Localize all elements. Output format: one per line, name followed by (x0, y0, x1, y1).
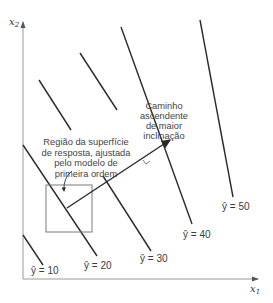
path-annotation-line-4: inclinação (143, 131, 184, 141)
contour-label-20: ŷ = 20 (84, 260, 112, 271)
contour-label-50: ŷ = 50 (222, 201, 250, 212)
contour-label-10: ŷ = 10 (31, 265, 59, 276)
region-annotation-line-4: primeira ordem (55, 169, 118, 179)
x-axis-label: x1 (250, 283, 260, 296)
path-annotation: Caminho ascendente de maior inclinação (140, 101, 188, 141)
contour-label-40: ŷ = 40 (183, 229, 211, 240)
contour-labels: ŷ = 10 ŷ = 20 ŷ = 30 ŷ = 40 ŷ = 50 (31, 201, 250, 276)
region-annotation: Região da superfície de resposta, ajusta… (42, 137, 132, 179)
contour-line-10-upper (39, 80, 71, 130)
right-angle-marker (143, 160, 150, 164)
first-order-region-box (46, 185, 92, 232)
path-annotation-line-1: Caminho (145, 101, 182, 111)
contour-label-30: ŷ = 30 (140, 253, 168, 264)
region-annotation-line-2: de resposta, ajustada (42, 148, 132, 158)
y-axis-label: x2 (9, 16, 20, 29)
contour-line-50 (200, 20, 233, 197)
path-annotation-line-2: ascendente (140, 111, 188, 121)
region-annotation-line-3: pelo modelo de (54, 158, 118, 168)
path-annotation-line-3: de maior (146, 121, 182, 131)
region-annotation-line-1: Região da superfície (43, 137, 128, 147)
contour-line-10 (23, 235, 43, 265)
response-surface-diagram: x2 x1 Região da superfície de resposta, … (0, 0, 273, 303)
contour-line-30 (103, 176, 151, 251)
contour-line-20-upper (80, 53, 117, 110)
